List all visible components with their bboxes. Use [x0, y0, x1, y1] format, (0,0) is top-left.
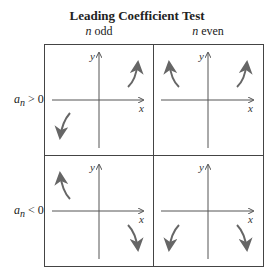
svg-text:x: x [138, 102, 144, 114]
panel-even-positive [161, 53, 253, 148]
svg-text:x: x [138, 213, 144, 225]
svg-text:y: y [198, 161, 204, 173]
svg-text:y: y [198, 50, 204, 62]
svg-text:y: y [89, 161, 95, 173]
panel-odd-negative [52, 165, 143, 259]
svg-text:x: x [247, 102, 253, 114]
svg-text:y: y [89, 50, 95, 62]
panel-even-negative [161, 165, 253, 259]
diagram-grid: yx yx yx yx [0, 0, 274, 280]
panel-odd-positive [52, 53, 143, 148]
axis-labels: yx yx yx yx [89, 50, 253, 225]
svg-text:x: x [247, 213, 253, 225]
grid-border [45, 45, 264, 267]
